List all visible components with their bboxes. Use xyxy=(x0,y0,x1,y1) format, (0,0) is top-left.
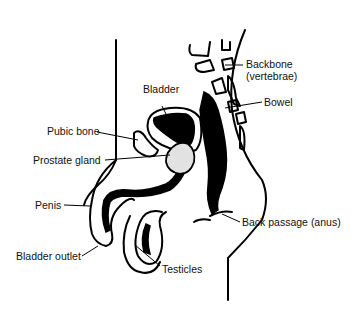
vertebra xyxy=(222,40,230,50)
front-body-outline xyxy=(84,40,116,205)
label-bowel: Bowel xyxy=(264,96,293,108)
bowel xyxy=(200,92,227,214)
pubic-bone xyxy=(134,131,158,156)
vertebra xyxy=(222,58,234,70)
penis-outline xyxy=(90,160,134,246)
leader-bladder-outlet xyxy=(82,246,98,256)
vertebra xyxy=(196,60,214,72)
label-pubic-bone: Pubic bone xyxy=(47,125,100,137)
leader-anus xyxy=(222,214,240,222)
leader-prostate xyxy=(105,155,170,160)
label-backbone-text: Backbone xyxy=(246,58,297,70)
leader-pubic-bone xyxy=(97,132,138,140)
label-backbone: Backbone (vertebrae) xyxy=(246,58,297,82)
bladder-interior xyxy=(154,114,195,147)
scrotum-outline xyxy=(124,216,160,273)
vertebra xyxy=(189,42,210,56)
label-backbone-sub: (vertebrae) xyxy=(246,70,297,82)
label-bladder: Bladder xyxy=(143,83,179,95)
testicle-interior xyxy=(142,224,150,254)
leader-penis xyxy=(64,205,90,206)
testicle-outline xyxy=(135,211,166,264)
buttock-line xyxy=(194,219,210,222)
vertebra xyxy=(212,78,226,94)
label-prostate: Prostate gland xyxy=(33,154,101,166)
label-testicles: Testicles xyxy=(162,263,202,275)
label-bladder-outlet: Bladder outlet xyxy=(16,250,81,262)
vertebra xyxy=(236,112,246,124)
label-penis: Penis xyxy=(35,199,61,211)
label-anus: Back passage (anus) xyxy=(242,216,341,228)
